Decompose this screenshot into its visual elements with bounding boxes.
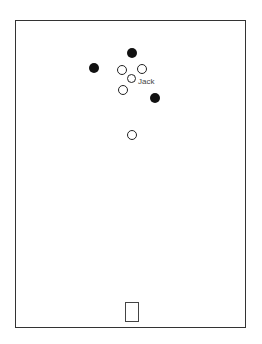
jack-label: Jack	[138, 77, 154, 86]
hollow-dot-4	[118, 85, 128, 95]
hollow-dot-1	[117, 65, 127, 75]
goal-box	[125, 302, 139, 322]
field-frame	[15, 20, 246, 328]
hollow-dot-2	[137, 64, 147, 74]
filled-dot-2	[89, 63, 99, 73]
hollow-dot-jack	[127, 74, 136, 83]
hollow-dot-5	[127, 130, 137, 140]
filled-dot-1	[127, 48, 137, 58]
filled-dot-3	[150, 93, 160, 103]
